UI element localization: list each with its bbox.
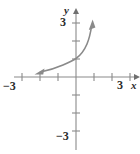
exponential-curve bbox=[41, 26, 92, 72]
y-axis-label-3: 3 bbox=[60, 16, 66, 28]
y-axis-label--3: −3 bbox=[56, 130, 69, 142]
exponential-graph-figure: −3 3 3 −3 x y bbox=[0, 0, 140, 154]
curve-right-arrowhead bbox=[89, 20, 96, 31]
x-axis-label-3: 3 bbox=[117, 79, 123, 91]
x-axis-label--3: −3 bbox=[3, 80, 16, 92]
y-axis-group bbox=[72, 8, 80, 150]
y-axis-title: y bbox=[64, 5, 69, 16]
y-axis-arrow-icon bbox=[73, 8, 79, 14]
coordinate-plane bbox=[0, 0, 140, 154]
curve-left-arrowhead bbox=[35, 69, 45, 75]
x-axis-title: x bbox=[131, 80, 137, 91]
